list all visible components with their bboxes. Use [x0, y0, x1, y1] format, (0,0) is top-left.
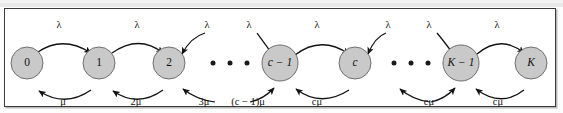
- service-transition-arcs: [39, 88, 524, 102]
- ellipsis-dot: [409, 61, 414, 66]
- ellipsis-dot: [392, 61, 397, 66]
- rate-label-lambda: λ: [134, 20, 139, 31]
- state-label-K-minus-1: K − 1: [448, 57, 475, 69]
- ellipsis-dot: [211, 61, 216, 66]
- ellipsis-dot: [245, 61, 250, 66]
- state-label-1: 1: [96, 57, 102, 69]
- rate-label-lambda: λ: [204, 20, 209, 31]
- rate-label-mu: cμ: [424, 97, 434, 108]
- state-label-2: 2: [166, 57, 172, 69]
- arc-arrival-K1-K: [477, 44, 524, 54]
- rate-label-lambda: λ: [385, 20, 390, 31]
- rate-label-lambda: λ: [56, 20, 61, 31]
- rate-label-lambda: λ: [246, 20, 251, 31]
- rate-label-lambda: λ: [426, 20, 431, 31]
- ellipsis-dot: [228, 61, 233, 66]
- figure-frame-box: 0 1 2 c − 1 c K − 1 K λ λ λ λ λ λ λ λ μ …: [4, 8, 556, 107]
- arc-service-K1-dots: [431, 88, 455, 102]
- arc-arrival-c1-c: [295, 45, 349, 55]
- rate-label-mu: cμ: [312, 97, 322, 108]
- arc-arrival-c-dots: [368, 33, 386, 54]
- arc-service-c-c1: [296, 89, 349, 99]
- rate-label-mu: (c − 1)μ: [231, 97, 265, 108]
- arc-arrival-0-1: [38, 44, 91, 53]
- state-label-K: K: [527, 57, 535, 69]
- scan-top-strip-highlight: [0, 0, 563, 3]
- arc-arrival-1-2: [112, 44, 163, 54]
- arc-arrival-2-dots: [182, 33, 205, 54]
- rate-label-lambda: λ: [314, 20, 319, 31]
- rate-label-mu: 3μ: [199, 97, 210, 108]
- rate-label-lambda: λ: [494, 20, 499, 31]
- rate-label-mu: 2μ: [131, 97, 142, 108]
- figure-canvas: 0 1 2 c − 1 c K − 1 K λ λ λ λ λ λ λ λ μ …: [0, 0, 563, 113]
- ellipsis-dot: [426, 61, 431, 66]
- state-label-0: 0: [24, 57, 30, 69]
- state-label-c: c: [352, 57, 357, 69]
- rate-label-mu: μ: [60, 97, 66, 108]
- rate-label-mu: cμ: [493, 97, 503, 108]
- state-label-c-minus-1: c − 1: [268, 57, 292, 69]
